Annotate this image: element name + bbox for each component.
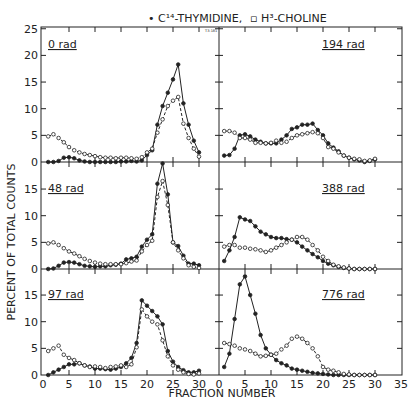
thymidine-point [161,162,165,166]
thymidine-point [311,371,315,375]
choline-point [254,247,258,251]
choline-point [161,118,165,122]
thymidine-point [62,156,66,160]
x-tick-label: 5 [66,378,73,391]
choline-point [192,373,196,377]
choline-point [306,131,310,135]
choline-point [259,141,263,145]
choline-point [145,243,149,247]
thymidine-point [222,154,226,158]
choline-point [161,339,165,343]
panel-title: 48 rad [48,182,84,195]
choline-point [358,158,362,162]
choline-point [295,134,299,138]
panel-title: 194 rad [322,38,365,51]
thymidine-point [72,363,76,367]
choline-point [166,203,170,207]
choline-point [57,243,61,247]
thymidine-point [119,160,123,164]
y-tick-label: 15 [24,76,38,89]
choline-point [300,337,304,341]
y-tick-label: 5 [31,342,38,355]
thymidine-point [197,151,201,155]
choline-point [248,138,252,142]
choline-point [156,323,160,327]
choline-point [197,266,201,270]
thymidine-point [269,235,273,239]
thymidine-point [46,160,50,164]
thymidine-point [67,155,71,159]
choline-point [290,136,294,140]
thymidine-point [238,283,242,287]
choline-point [259,355,263,359]
panel-194-rad: 194 rad [222,38,376,164]
choline-point [98,365,102,369]
choline-point [109,156,113,160]
choline-point [285,140,289,144]
choline-point [124,156,128,160]
choline-point [326,145,330,149]
choline-point [98,262,102,266]
y-tick-label: 0 [31,369,38,382]
choline-line [224,237,375,269]
choline-point [233,344,237,348]
choline-point [93,365,97,369]
thymidine-point [150,309,154,313]
thymidine-point [57,159,61,163]
choline-point [290,337,294,341]
thymidine-point [285,364,289,368]
choline-point [166,355,170,359]
choline-point [46,242,50,246]
panel-388-rad: 388 rad [222,182,376,271]
thymidine-point [274,236,278,240]
choline-point [130,363,134,367]
x-tick-label: 0 [40,378,47,391]
thymidine-line [224,217,375,269]
annotation: T3-181 [204,29,217,33]
choline-point [135,345,139,349]
choline-point [248,247,252,251]
choline-point [300,235,304,239]
choline-point [321,365,325,369]
thymidine-point [192,139,196,143]
choline-point [222,341,226,345]
panel-title: 388 rad [322,182,365,195]
thymidine-point [182,102,186,106]
choline-point [52,132,56,136]
choline-point [311,347,315,351]
choline-point [109,262,113,266]
thymidine-point [243,275,247,279]
thymidine-point [140,299,144,303]
thymidine-point [254,225,258,229]
choline-point [150,320,154,324]
choline-point [269,353,273,357]
thymidine-point [171,78,175,82]
thymidine-point [233,317,237,321]
thymidine-point [306,249,310,253]
thymidine-point [104,160,108,164]
thymidine-point [311,122,315,126]
thymidine-point [52,160,56,164]
thymidine-point [140,245,144,249]
choline-point [72,358,76,362]
choline-point [274,139,278,143]
choline-point [332,147,336,151]
choline-point [311,243,315,247]
x-tick-label: 15 [114,378,128,391]
x-tick-label: 30 [368,378,382,391]
choline-point [124,365,128,369]
thymidine-point [124,361,128,365]
choline-point [222,245,226,249]
panel-776-rad: 776 rad [222,275,376,377]
thymidine-point [222,365,226,369]
choline-point [114,365,118,369]
choline-point [285,344,289,348]
choline-point [228,129,232,133]
thymidine-point [295,126,299,130]
y-tick-label: 5 [31,129,38,142]
thymidine-point [254,312,258,316]
choline-point [135,259,139,263]
choline-point [46,349,50,353]
choline-point [67,250,71,254]
choline-point [363,373,367,377]
